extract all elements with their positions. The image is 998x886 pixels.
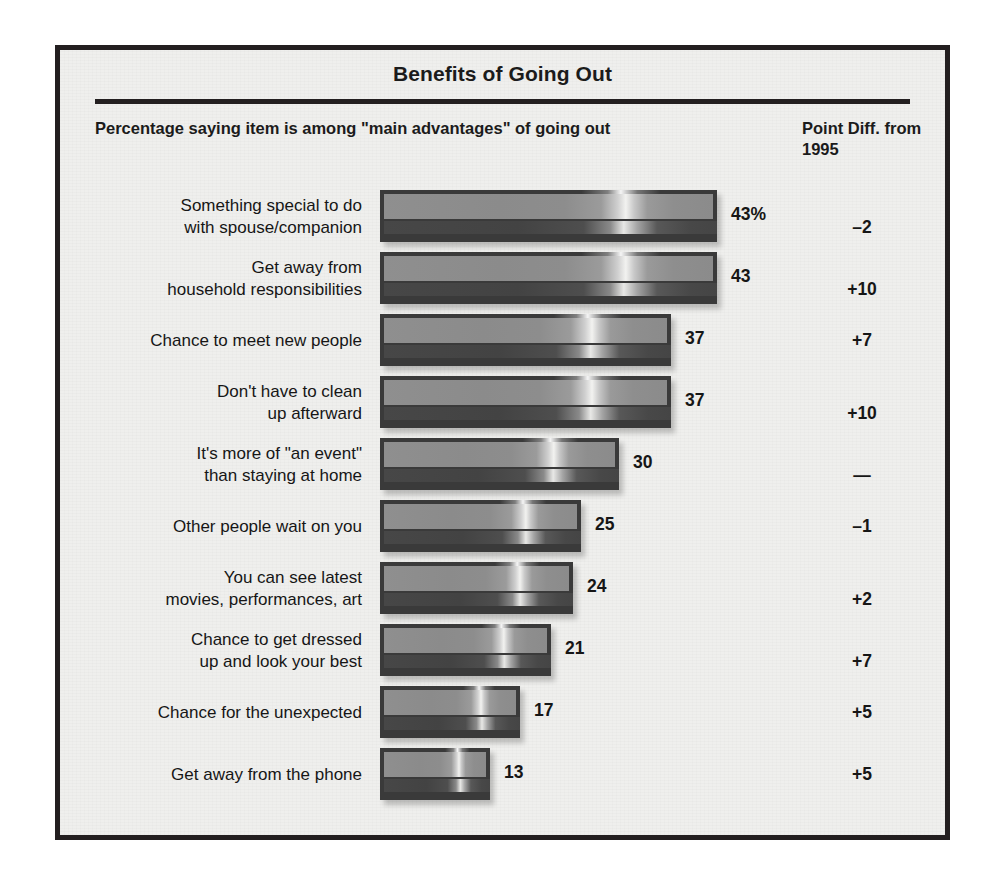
bar-top-face (384, 256, 713, 281)
bar-row: Chance to get dressed up and look your b… (60, 624, 945, 686)
point-diff-value: –1 (802, 516, 922, 537)
bar-front-face (384, 283, 717, 296)
bar-front-face (384, 531, 581, 544)
chart-canvas: Benefits of Going Out Percentage saying … (0, 0, 998, 886)
bar-row: You can see latest movies, performances,… (60, 562, 945, 624)
bar-value-label: 37 (685, 390, 704, 411)
bar (380, 748, 490, 800)
bar-value-label: 43% (731, 204, 766, 225)
bar (380, 438, 619, 490)
point-diff-value: +10 (802, 403, 922, 424)
bar-highlight (384, 376, 667, 380)
bar (380, 252, 717, 304)
bar-row-label: It's more of "an event" than staying at … (62, 443, 362, 487)
bar-row-label: Get away from household responsibilities (62, 257, 362, 301)
bar-track (380, 252, 717, 306)
bar-row-label: Don't have to clean up afterward (62, 381, 362, 425)
bar-value-label: 37 (685, 328, 704, 349)
bar-value-label: 13 (504, 762, 523, 783)
bar-row-label: Chance for the unexpected (62, 702, 362, 724)
bar-track (380, 686, 520, 740)
bar-row: Other people wait on you25–1 (60, 500, 945, 562)
bar-top-face (384, 318, 667, 343)
bar-track (380, 438, 619, 492)
bar (380, 500, 581, 552)
bar-front-face (384, 345, 671, 358)
point-diff-value: +5 (802, 764, 922, 785)
bar-top-face (384, 566, 569, 591)
bar-track (380, 500, 581, 554)
point-diff-value: +10 (802, 279, 922, 300)
chart-panel: Benefits of Going Out Percentage saying … (55, 45, 950, 840)
bar-front-face (384, 469, 619, 482)
bar-row-label: Something special to do with spouse/comp… (62, 195, 362, 239)
bar-front-face (384, 655, 551, 668)
bar-row: Get away from the phone13+5 (60, 748, 945, 810)
bar-front-face (384, 779, 490, 792)
bar-top-face (384, 380, 667, 405)
bar-top-face (384, 504, 577, 529)
point-diff-value: +5 (802, 702, 922, 723)
bar-highlight (384, 562, 569, 566)
bar-track (380, 748, 490, 802)
point-diff-value: +2 (802, 589, 922, 610)
bar-rows: Something special to do with spouse/comp… (60, 190, 945, 810)
bar-value-label: 43 (731, 266, 750, 287)
bar (380, 376, 671, 428)
bar-row-label: Get away from the phone (62, 764, 362, 786)
title-divider (95, 99, 910, 104)
page-title: Benefits of Going Out (60, 62, 945, 86)
point-diff-value: — (802, 465, 922, 486)
bar (380, 190, 717, 242)
point-diff-value: +7 (802, 330, 922, 351)
bar-front-face (384, 717, 520, 730)
bar-top-face (384, 628, 547, 653)
bar-row-label: Other people wait on you (62, 516, 362, 538)
bar-value-label: 30 (633, 452, 652, 473)
bar-value-label: 25 (595, 514, 614, 535)
bar-highlight (384, 438, 615, 442)
bar (380, 624, 551, 676)
bar-row: Don't have to clean up afterward37+10 (60, 376, 945, 438)
bar-highlight (384, 624, 547, 628)
bar-highlight (384, 500, 577, 504)
bar-row: Chance to meet new people37+7 (60, 314, 945, 376)
bar-row: Get away from household responsibilities… (60, 252, 945, 314)
bar-value-label: 21 (565, 638, 584, 659)
left-column-header: Percentage saying item is among "main ad… (95, 118, 635, 139)
bar-front-face (384, 407, 671, 420)
bar-top-face (384, 690, 516, 715)
bar-highlight (384, 252, 713, 256)
bar (380, 314, 671, 366)
bar-track (380, 624, 551, 678)
bar-row: It's more of "an event" than staying at … (60, 438, 945, 500)
bar (380, 562, 573, 614)
bar-highlight (384, 686, 516, 690)
bar-highlight (384, 190, 713, 194)
bar-row: Something special to do with spouse/comp… (60, 190, 945, 252)
bar-highlight (384, 314, 667, 318)
bar-front-face (384, 221, 717, 234)
bar (380, 686, 520, 738)
bar-track (380, 314, 671, 368)
bar-row: Chance for the unexpected17+5 (60, 686, 945, 748)
bar-row-label: Chance to get dressed up and look your b… (62, 629, 362, 673)
bar-highlight (384, 748, 486, 752)
bar-row-label: You can see latest movies, performances,… (62, 567, 362, 611)
bar-value-label: 17 (534, 700, 553, 721)
bar-front-face (384, 593, 573, 606)
bar-top-face (384, 442, 615, 467)
bar-track (380, 190, 717, 244)
point-diff-value: –2 (802, 217, 922, 238)
bar-top-face (384, 194, 713, 219)
bar-track (380, 376, 671, 430)
bar-row-label: Chance to meet new people (62, 330, 362, 352)
right-column-header: Point Diff. from 1995 (802, 118, 952, 160)
bar-value-label: 24 (587, 576, 606, 597)
point-diff-value: +7 (802, 651, 922, 672)
bar-track (380, 562, 573, 616)
bar-top-face (384, 752, 486, 777)
